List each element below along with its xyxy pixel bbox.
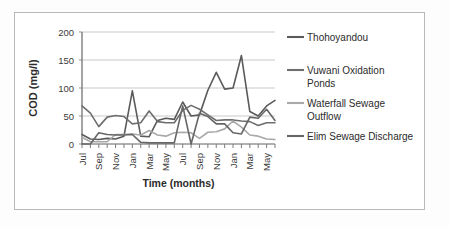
x-tick-label: Jan (127, 153, 138, 168)
legend-label-2: Waterfall Sewage (307, 98, 385, 109)
x-axis-title: Time (months) (142, 177, 214, 189)
x-tick-label: Jul (77, 153, 88, 165)
chart-frame: 050100150200JulSepNovJanMarMayJulSepNovJ… (14, 12, 425, 210)
x-tick-label: Mar (244, 153, 255, 169)
x-tick-label: Jul (177, 153, 188, 165)
line-chart: 050100150200JulSepNovJanMarMayJulSepNovJ… (15, 13, 424, 209)
legend-label-1-line2: Ponds (307, 78, 335, 89)
x-tick-label: Sep (93, 153, 104, 170)
y-tick-label: 200 (58, 27, 74, 38)
x-tick-label: Nov (110, 153, 121, 170)
legend-label-0: Thohoyandou (307, 32, 368, 43)
y-axis-title: COD (mg/l) (27, 59, 39, 117)
figure-root: 050100150200JulSepNovJanMarMayJulSepNovJ… (0, 0, 449, 228)
x-tick-label: Nov (211, 153, 222, 170)
legend-label-2-line2: Outflow (307, 111, 342, 122)
y-tick-label: 0 (69, 139, 74, 150)
legend-label-3: Elim Sewage Discharge (307, 131, 414, 142)
y-tick-label: 50 (63, 111, 74, 122)
y-tick-label: 150 (58, 55, 74, 66)
legend-label-1: Vuwani Oxidation (307, 65, 384, 76)
y-tick-label: 100 (58, 83, 74, 94)
x-tick-label: Mar (144, 153, 155, 169)
x-tick-label: Sep (194, 153, 205, 170)
x-tick-label: Jan (228, 153, 239, 168)
x-tick-label: May (261, 153, 272, 171)
x-tick-label: May (160, 153, 171, 171)
